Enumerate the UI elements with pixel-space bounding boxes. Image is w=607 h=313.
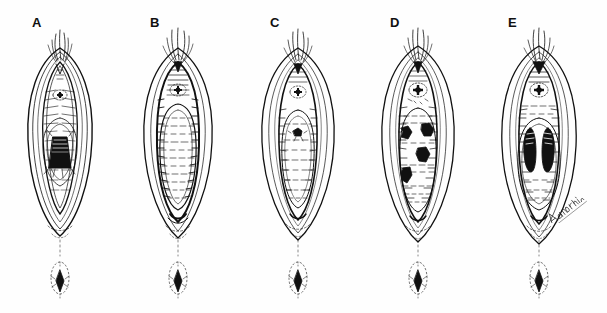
panel-a: A (0, 0, 120, 313)
panel-e-illustration (476, 0, 607, 313)
panel-d: D (358, 0, 478, 313)
panel-d-illustration (358, 0, 478, 313)
anus-mark (51, 262, 69, 300)
lesion-pair (524, 128, 555, 172)
artist-signature (542, 193, 588, 223)
panel-c: C (238, 0, 358, 313)
anus-mark (169, 262, 187, 300)
figure-canvas: A (0, 0, 607, 313)
lesion-group (401, 123, 434, 183)
panel-c-illustration (238, 0, 358, 313)
anus-mark (530, 262, 548, 300)
panel-b: B (118, 0, 238, 313)
panel-a-illustration (0, 0, 120, 313)
lesion-speck (288, 128, 307, 141)
anus-mark (409, 262, 427, 300)
panel-b-illustration (118, 0, 238, 313)
panel-e: E (476, 0, 607, 313)
anus-mark (289, 262, 307, 300)
